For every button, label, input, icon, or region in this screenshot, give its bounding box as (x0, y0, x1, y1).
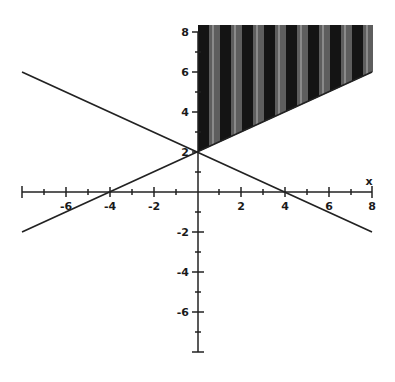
y-tick-label: 8 (181, 26, 189, 39)
y-tick-label: -6 (177, 306, 190, 319)
x-tick-label: 6 (325, 200, 333, 213)
y-tick-label: 2 (181, 146, 189, 159)
x-tick-label: -4 (104, 200, 117, 213)
x-tick-labels: -6 -4 -2 2 4 6 8 (60, 200, 376, 213)
shaded-region (198, 25, 373, 192)
x-tick-label: -6 (60, 200, 73, 213)
x-axis (22, 186, 372, 198)
y-tick-label: 6 (181, 66, 189, 79)
x-tick-label: -2 (148, 200, 160, 213)
y-tick-label: 4 (181, 106, 189, 119)
y-tick-label: -4 (177, 266, 190, 279)
x-tick-label: 8 (368, 200, 376, 213)
y-tick-labels: 8 6 4 2 -2 -4 -6 (177, 26, 190, 319)
y-tick-label: -2 (177, 226, 189, 239)
x-tick-label: 4 (281, 200, 289, 213)
x-tick-label: 2 (237, 200, 245, 213)
chart-canvas: -6 -4 -2 2 4 6 8 x 8 6 4 2 -2 -4 -6 (0, 0, 395, 382)
x-axis-label: x (365, 175, 372, 188)
